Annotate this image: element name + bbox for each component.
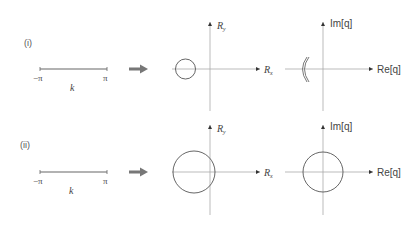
- k-max-label: π: [103, 73, 108, 83]
- ry-label: R: [216, 123, 223, 134]
- re-q-label: Re[q]: [377, 64, 401, 75]
- map-arrow-icon: [129, 168, 148, 177]
- im-q-label: Im[q]: [330, 18, 352, 29]
- k-line-i: −π π k: [33, 67, 108, 93]
- re-q-label: Re[q]: [377, 167, 401, 178]
- im-q-label: Im[q]: [330, 121, 352, 132]
- map-arrow-icon: [129, 65, 148, 74]
- k-min-label: −π: [33, 176, 43, 186]
- svg-text:Rx: Rx: [263, 167, 273, 179]
- k-line-ii: −π π k: [33, 170, 108, 196]
- k-var-label: k: [70, 82, 75, 93]
- r-plane-ii: Ry Rx: [172, 123, 273, 215]
- row-ii: (ii) −π π k Ry Rx Im[q] Re[q]: [20, 121, 401, 215]
- row-label-i: (i): [24, 38, 32, 48]
- r-plane-i: Ry Rx: [172, 20, 273, 111]
- svg-text:Ry: Ry: [216, 123, 226, 135]
- q-plane-i: Im[q] Re[q]: [285, 18, 401, 111]
- k-max-label: π: [103, 176, 108, 186]
- k-var-label: k: [69, 185, 74, 196]
- diagram-canvas: (i) −π π k Ry Rx Im[q] Re[q]: [0, 0, 416, 228]
- rx-label: R: [263, 167, 270, 178]
- svg-text:Rx: Rx: [263, 64, 273, 76]
- q-plane-ii: Im[q] Re[q]: [285, 121, 401, 215]
- rx-label: R: [263, 64, 270, 75]
- row-label-ii: (ii): [20, 140, 30, 150]
- svg-text:Ry: Ry: [216, 20, 226, 32]
- k-min-label: −π: [33, 73, 43, 83]
- ry-label: R: [216, 20, 223, 31]
- row-i: (i) −π π k Ry Rx Im[q] Re[q]: [24, 18, 401, 111]
